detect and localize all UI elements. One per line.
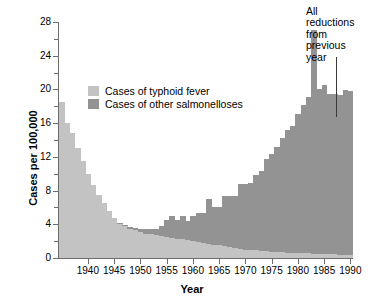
legend-item-salmonelloses: Cases of other salmonelloses bbox=[88, 98, 243, 110]
chart-legend: Cases of typhoid fever Cases of other sa… bbox=[88, 85, 243, 111]
y-tick-major bbox=[53, 22, 58, 23]
y-tick-label-text: 8 bbox=[25, 186, 51, 196]
x-axis-line bbox=[58, 258, 353, 259]
annotation-line-5: year bbox=[306, 52, 354, 63]
y-tick-major bbox=[53, 56, 58, 57]
annotation-pointer-line bbox=[336, 57, 337, 117]
y-tick-label: 4 bbox=[21, 219, 51, 229]
y-tick-label: 28 bbox=[21, 17, 51, 27]
y-tick-minor bbox=[54, 106, 58, 107]
x-tick bbox=[298, 259, 299, 264]
y-tick-minor bbox=[54, 241, 58, 242]
x-tick bbox=[114, 259, 115, 264]
bar-1990 bbox=[348, 91, 353, 258]
y-tick-label-text: 28 bbox=[25, 17, 51, 27]
y-tick-minor bbox=[54, 73, 58, 74]
x-tick bbox=[140, 259, 141, 264]
y-tick-label: 12 bbox=[21, 152, 51, 162]
annotation-line-4: previous bbox=[306, 40, 354, 51]
y-tick-major bbox=[53, 89, 58, 90]
x-tick bbox=[245, 259, 246, 264]
y-tick-label-text: 12 bbox=[25, 152, 51, 162]
y-tick-label: 8 bbox=[21, 186, 51, 196]
y-tick-major bbox=[53, 191, 58, 192]
x-axis-title: Year bbox=[0, 283, 384, 295]
x-tick bbox=[350, 259, 351, 264]
legend-swatch-typhoid bbox=[88, 86, 99, 96]
y-tick-label: 16 bbox=[21, 118, 51, 128]
y-tick-label-text: 0 bbox=[25, 253, 51, 263]
bar-segment-typhoid bbox=[348, 255, 353, 258]
x-tick bbox=[219, 259, 220, 264]
y-tick-major bbox=[53, 224, 58, 225]
y-tick-minor bbox=[54, 174, 58, 175]
legend-swatch-salmonelloses bbox=[88, 99, 99, 109]
chart-canvas: Cases per 100,000 0481216202428 19401945… bbox=[0, 0, 384, 306]
y-tick-label-text: 24 bbox=[25, 51, 51, 61]
y-tick-label-text: 16 bbox=[25, 118, 51, 128]
x-tick bbox=[193, 259, 194, 264]
x-tick bbox=[88, 259, 89, 264]
x-tick bbox=[272, 259, 273, 264]
y-tick-minor bbox=[54, 39, 58, 40]
x-tick bbox=[324, 259, 325, 264]
annotation-all-reductions: All reductions from previous year bbox=[306, 6, 354, 63]
y-tick-major bbox=[53, 123, 58, 124]
y-tick-minor bbox=[54, 140, 58, 141]
legend-label-typhoid: Cases of typhoid fever bbox=[105, 85, 209, 97]
x-tick bbox=[167, 259, 168, 264]
y-tick-minor bbox=[54, 207, 58, 208]
legend-label-salmonelloses: Cases of other salmonelloses bbox=[105, 98, 243, 110]
legend-item-typhoid: Cases of typhoid fever bbox=[88, 85, 243, 97]
bar-segment-salmonelloses bbox=[348, 91, 353, 255]
y-tick-major bbox=[53, 157, 58, 158]
y-tick-label: 20 bbox=[21, 84, 51, 94]
y-tick-label-text: 20 bbox=[25, 84, 51, 94]
y-tick-major bbox=[53, 258, 58, 259]
y-tick-label: 24 bbox=[21, 51, 51, 61]
y-tick-label: 0 bbox=[21, 253, 51, 263]
x-tick-label: 1990 bbox=[330, 265, 370, 276]
y-tick-label-text: 4 bbox=[25, 219, 51, 229]
